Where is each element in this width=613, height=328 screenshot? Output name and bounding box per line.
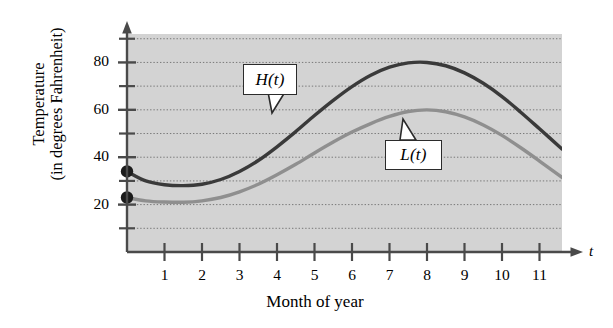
x-axis-label: Month of year [190,292,440,312]
x-tick-label: 11 [527,266,553,284]
series-label-h: H(t) [243,64,297,95]
plot-background [127,34,562,252]
y-tick-label: 20 [75,195,109,213]
x-tick-label: 5 [302,266,328,284]
x-tick-label: 10 [489,266,515,284]
x-tick-label: 7 [377,266,403,284]
x-tick-label: 1 [152,266,178,284]
chart-figure: Temperature (in degrees Fahrenheit) Mont… [0,0,613,328]
x-tick-label: 3 [227,266,253,284]
x-tick-label: 6 [339,266,365,284]
y-tick-label: 60 [75,100,109,118]
series-label-l: L(t) [385,140,442,170]
x-tick-label: 2 [189,266,215,284]
y-axis-label: Temperature (in degrees Fahrenheit) [26,4,70,204]
y-axis-label-line2: (in degrees Fahrenheit) [48,27,66,180]
x-tick-label: 8 [414,266,440,284]
y-tick-label: 80 [75,52,109,70]
x-tick-label: 9 [452,266,478,284]
x-tick-label: 4 [264,266,290,284]
y-tick-label: 40 [75,147,109,165]
y-axis-label-line1: Temperature [30,62,48,145]
x-axis-variable: t [589,243,593,260]
